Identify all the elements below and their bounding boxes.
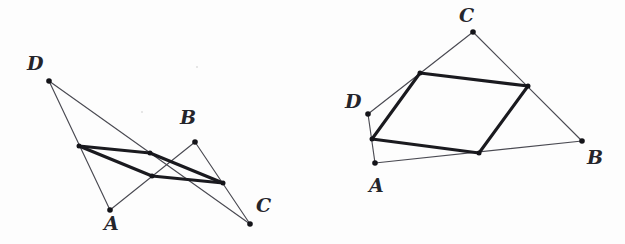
vertex-label-b-fig1: B: [180, 108, 196, 127]
midpoint-dot-M_CD: [418, 71, 423, 76]
vertex-dot-A: [372, 160, 378, 166]
midpoint-dot-M_DA: [370, 137, 375, 142]
vertex-dot-D: [365, 111, 371, 117]
vertex-dot-D: [46, 78, 52, 84]
midpoint-dot-M_DA: [77, 144, 82, 149]
vertex-label-c-fig2: C: [459, 6, 474, 25]
midpoint-dot-M_BC: [221, 181, 226, 186]
midpoint-dot-M_AB: [150, 174, 155, 179]
vertex-label-d-fig2: D: [345, 92, 361, 111]
midpoint-edge-M_DA-M_AB: [372, 139, 479, 153]
midpoint-dot-M_AB: [477, 151, 482, 156]
vertex-label-b-fig2: B: [587, 148, 603, 167]
vertex-dot-B: [192, 139, 198, 145]
vertex-label-d-fig1: D: [27, 54, 43, 73]
vertex-dot-C: [470, 29, 476, 35]
midpoint-dot-M_BC: [526, 84, 531, 89]
figure-crossed-quadrilateral: [46, 78, 253, 227]
midpoint-edge-M_CD-M_DA: [372, 73, 420, 139]
vertex-dot-C: [247, 221, 253, 227]
geometry-figure-board: DABCCDAB: [0, 0, 625, 244]
geometry-svg: [0, 0, 625, 244]
vertex-label-a-fig1: A: [104, 214, 119, 233]
scan-speck-0: [196, 66, 198, 68]
vertex-dot-B: [579, 138, 585, 144]
vertex-label-a-fig2: A: [369, 176, 384, 195]
midpoint-edge-M_AB-M_BC: [479, 86, 528, 153]
figure-convex-quadrilateral: [365, 29, 585, 166]
midpoint-dot-M_CD: [148, 151, 153, 156]
midpoint-edge-M_BC-M_CD: [420, 73, 528, 86]
vertex-label-c-fig1: C: [256, 196, 271, 215]
scan-speck-1: [141, 111, 143, 113]
